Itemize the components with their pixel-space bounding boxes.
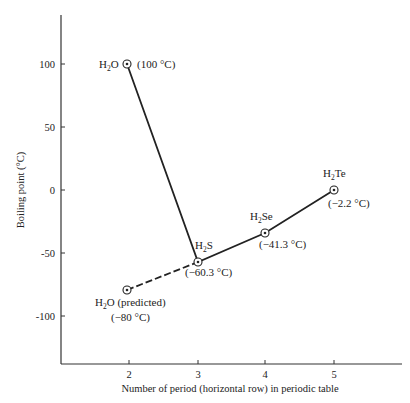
label-h2o: H2O [99,58,119,73]
y-tick-label: 50 [45,122,56,133]
x-tick-label: 5 [331,369,336,380]
value-h2s: (−60.3 °C) [185,266,233,279]
label-h2te: H2Te [323,167,346,182]
label-h2se: H2Se [250,210,273,225]
label-h2s: H2S [195,239,213,254]
value-h2o-predicted: (−80 °C) [111,311,150,324]
y-axis-title: Boiling point (°C) [15,151,27,228]
y-tick-label: 100 [39,59,55,70]
x-ticks: 2 3 4 5 [126,360,336,380]
boiling-point-chart: 100 50 0 -50 -100 2 3 4 5 Number of peri… [0,0,410,403]
y-tick-label: -100 [36,311,55,322]
label-h2o-predicted: H2O (predicted) [95,296,166,311]
x-tick-label: 4 [262,369,268,380]
x-tick-label: 2 [126,369,131,380]
data-markers [123,60,338,294]
x-tick-label: 3 [195,369,200,380]
actual-series-line [127,64,334,262]
y-tick-label: 0 [50,185,55,196]
value-h2te: (−2.2 °C) [328,197,370,210]
x-axis-title: Number of period (horizontal row) in per… [121,383,339,395]
value-h2o: (100 °C) [137,58,176,71]
y-tick-label: -50 [41,248,55,259]
value-h2se: (−41.3 °C) [259,238,307,251]
